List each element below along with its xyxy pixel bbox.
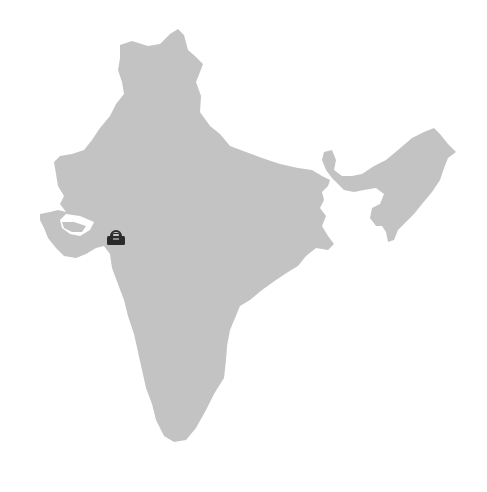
region-north-east[interactable] xyxy=(322,128,456,242)
region-mainland[interactable] xyxy=(40,29,334,442)
india-map: India xyxy=(0,0,487,492)
briefcase-marker[interactable] xyxy=(106,228,126,246)
briefcase-icon xyxy=(106,228,126,246)
